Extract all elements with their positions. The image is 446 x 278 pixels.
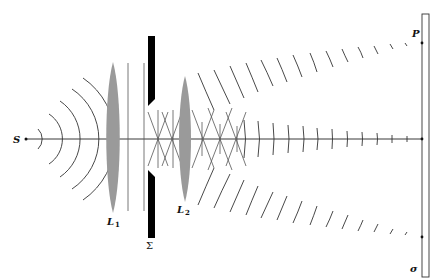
lens-l2 — [179, 76, 191, 202]
label-point-p: P — [411, 28, 420, 39]
aperture-stop-lower — [148, 170, 155, 238]
aperture-stop-upper — [148, 36, 155, 106]
optics-diagram: S L1 L2 Σ P σ — [0, 0, 446, 278]
point-p-marker — [421, 42, 424, 45]
source-point — [25, 138, 28, 141]
lower-beam-wavelets — [198, 168, 407, 235]
label-lens1: L1 — [106, 216, 120, 229]
lens-l1 — [106, 62, 120, 213]
upper-beam-wavelets — [198, 43, 407, 110]
label-stop: Σ — [146, 240, 153, 251]
axis-screen-marker — [421, 138, 424, 141]
lower-point-marker — [421, 236, 424, 239]
label-source: S — [13, 134, 20, 145]
label-screen: σ — [410, 263, 418, 274]
label-lens2: L2 — [176, 204, 190, 217]
